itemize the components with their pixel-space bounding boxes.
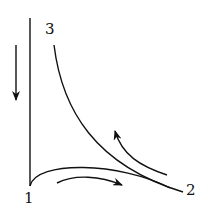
arrow-1-to-2-icon — [57, 177, 122, 185]
arrow-2-to-3-icon — [115, 131, 167, 175]
diagram-canvas: 3 1 2 — [0, 0, 202, 216]
curve-1-to-2 — [30, 167, 170, 188]
label-point-1: 1 — [24, 191, 34, 206]
diagram-svg — [0, 0, 202, 216]
label-point-3: 3 — [45, 22, 55, 37]
label-point-2: 2 — [186, 183, 196, 198]
curve-3-to-2 — [54, 45, 183, 192]
